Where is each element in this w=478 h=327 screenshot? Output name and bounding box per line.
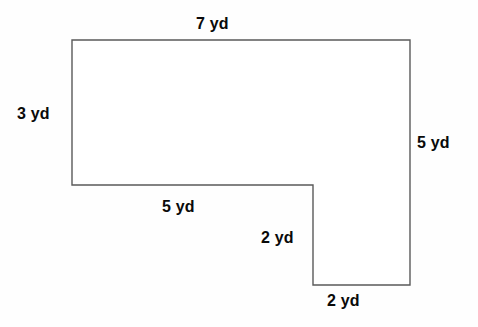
dimension-label-middle-bottom: 5 yd	[162, 197, 195, 217]
figure-canvas: 7 yd 3 yd 5 yd 5 yd 2 yd 2 yd	[0, 0, 478, 327]
l-shape-polygon	[72, 40, 410, 285]
dimension-label-bottom: 2 yd	[327, 291, 360, 311]
dimension-label-right: 5 yd	[417, 133, 450, 153]
dimension-label-top: 7 yd	[196, 14, 229, 34]
dimension-label-notch-vertical: 2 yd	[261, 228, 294, 248]
composite-shape-svg	[0, 0, 478, 327]
dimension-label-left: 3 yd	[17, 104, 50, 124]
